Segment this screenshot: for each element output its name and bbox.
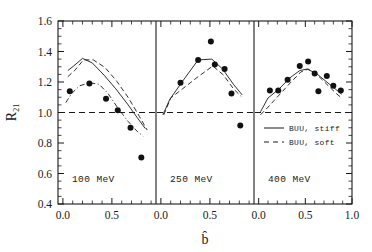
data-point <box>67 88 73 94</box>
data-point <box>275 87 281 93</box>
data-point <box>324 73 330 79</box>
data-point <box>297 63 303 69</box>
data-point <box>338 87 344 93</box>
y-axis-label: R21 <box>4 104 21 121</box>
data-point <box>237 122 243 128</box>
data-point <box>208 39 214 45</box>
x-tick-label: 1.0 <box>345 209 360 221</box>
data-point <box>312 71 318 77</box>
data-point <box>228 90 234 96</box>
x-tick-label: 0.5 <box>203 209 218 221</box>
x-tick-label: 0.0 <box>56 209 71 221</box>
data-point <box>315 88 321 94</box>
chart-canvas: 0.40.60.81.01.21.41.6R210.00.5100 MeV0.0… <box>0 0 372 252</box>
data-point <box>195 57 201 63</box>
data-point <box>212 61 218 67</box>
x-tick-label: 0.5 <box>298 209 313 221</box>
curve-dashed <box>164 66 241 115</box>
y-tick-label: 0.4 <box>38 198 53 210</box>
y-tick-label: 1.0 <box>38 107 53 119</box>
y-tick-label: 0.8 <box>38 137 53 149</box>
y-tick-label: 0.6 <box>38 168 53 180</box>
data-point <box>222 66 228 72</box>
y-tick-label: 1.4 <box>38 46 53 58</box>
x-tick-label: 0.5 <box>105 209 120 221</box>
y-tick-label: 1.6 <box>38 15 53 27</box>
x-tick-label: 0.0 <box>154 209 169 221</box>
data-point <box>305 58 311 64</box>
data-point <box>138 154 144 160</box>
data-point <box>103 96 109 102</box>
legend-label: BUU, soft <box>289 138 335 147</box>
x-axis-label: b̂ <box>202 231 209 247</box>
panel-label: 250 MeV <box>170 174 213 185</box>
panel-label: 400 MeV <box>268 174 311 185</box>
panel-label: 100 MeV <box>72 174 115 185</box>
figure-root: 0.40.60.81.01.21.41.6R210.00.5100 MeV0.0… <box>0 0 372 252</box>
data-point <box>115 107 121 113</box>
data-point <box>86 81 92 87</box>
data-point <box>178 80 184 86</box>
curve-dashed <box>68 60 147 130</box>
data-point <box>128 125 134 131</box>
x-tick-label: 0.0 <box>251 209 266 221</box>
legend-label: BUU, stiff <box>289 124 340 133</box>
data-point <box>285 77 291 83</box>
data-point <box>267 87 273 93</box>
data-point <box>330 83 336 89</box>
y-tick-label: 1.2 <box>38 76 53 88</box>
curve-solid <box>163 59 242 115</box>
